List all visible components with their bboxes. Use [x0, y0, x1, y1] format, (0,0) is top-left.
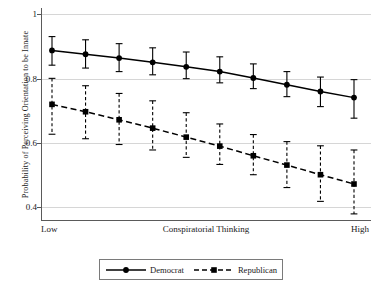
data-point-democrat [150, 59, 156, 65]
x-axis-labels: Low Conspiratorial Thinking High [41, 224, 371, 238]
legend-box: Democrat Republican [99, 259, 283, 280]
data-point-democrat [116, 55, 122, 61]
data-point-republican [150, 125, 156, 131]
data-point-republican [284, 162, 290, 168]
data-point-democrat [318, 89, 324, 95]
data-point-republican [183, 134, 189, 140]
data-point-democrat [284, 82, 290, 88]
trend-line-democrat [52, 50, 354, 97]
x-axis-label-high: High [351, 224, 369, 234]
plot-area: 0.40.60.81 [41, 8, 371, 220]
legend-label-republican: Republican [238, 265, 277, 275]
legend-swatch-republican-icon [193, 264, 235, 276]
data-point-republican [351, 181, 357, 187]
y-axis-title: Probability of Perceiving Orientation to… [21, 10, 30, 220]
figure-canvas: Probability of Perceiving Orientation to… [0, 0, 378, 286]
data-point-democrat [183, 64, 189, 70]
data-point-democrat [49, 48, 55, 54]
y-axis-tick-label: 0.8 [26, 74, 37, 84]
data-point-republican [116, 117, 122, 123]
data-point-democrat [351, 95, 357, 101]
x-axis-line [41, 220, 371, 221]
data-point-republican [251, 153, 257, 159]
legend-item-republican: Republican [193, 264, 277, 276]
legend-swatch-democrat-icon [105, 264, 147, 276]
data-point-republican [217, 143, 223, 149]
legend-item-democrat: Democrat [105, 264, 184, 276]
data-point-republican [49, 102, 55, 108]
data-point-republican [83, 109, 89, 115]
data-point-democrat [250, 75, 256, 81]
data-series-group [41, 8, 371, 220]
x-axis-title: Conspiratorial Thinking [41, 224, 371, 234]
data-point-democrat [83, 51, 89, 57]
y-axis-tick-label: 0.4 [26, 202, 37, 212]
trend-line-republican [52, 104, 354, 184]
data-point-republican [318, 172, 324, 178]
legend-label-democrat: Democrat [150, 265, 184, 275]
data-point-democrat [217, 69, 223, 75]
y-axis-tick-label: 0.6 [26, 138, 37, 148]
